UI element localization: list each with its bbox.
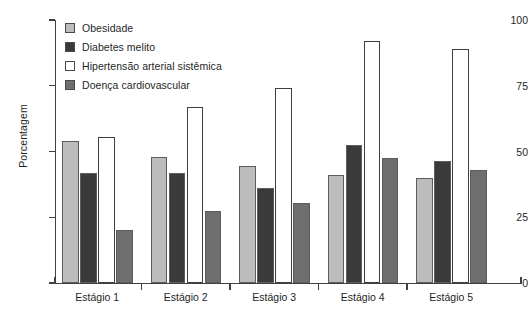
legend-item: Diabetes melito bbox=[65, 39, 222, 56]
bar bbox=[239, 166, 256, 283]
x-axis-tick-label: Estágio 5 bbox=[429, 291, 473, 303]
bar-chart: Porcentagem 0255075100 Estágio 1Estágio … bbox=[0, 0, 528, 318]
legend-swatch-icon bbox=[65, 23, 75, 33]
bar bbox=[205, 211, 222, 283]
x-axis-tick bbox=[229, 283, 230, 290]
bar bbox=[80, 173, 97, 283]
bar bbox=[257, 188, 274, 283]
x-axis-tick bbox=[141, 283, 142, 290]
chart-legend: ObesidadeDiabetes melitoHipertensão arte… bbox=[65, 20, 222, 96]
legend-swatch-icon bbox=[65, 80, 75, 90]
bar bbox=[452, 49, 469, 283]
x-axis-end-cap bbox=[54, 277, 55, 284]
bar bbox=[382, 158, 399, 283]
bar bbox=[346, 145, 363, 283]
x-axis-tick bbox=[318, 283, 319, 290]
bar bbox=[470, 170, 487, 283]
legend-swatch-icon bbox=[65, 42, 75, 52]
bar bbox=[328, 175, 345, 283]
x-axis-tick-label: Estágio 3 bbox=[252, 291, 296, 303]
bar bbox=[169, 173, 186, 283]
legend-item-label: Doença cardiovascular bbox=[82, 79, 190, 91]
x-axis-tick-label: Estágio 4 bbox=[341, 291, 385, 303]
bar bbox=[151, 157, 168, 283]
legend-item: Hipertensão arterial sistêmica bbox=[65, 58, 222, 75]
legend-item: Obesidade bbox=[65, 20, 222, 37]
legend-item-label: Obesidade bbox=[82, 22, 133, 34]
bar bbox=[434, 161, 451, 283]
bar bbox=[62, 141, 79, 283]
bar bbox=[275, 88, 292, 283]
bar bbox=[98, 137, 115, 283]
legend-item: Doença cardiovascular bbox=[65, 77, 222, 94]
x-axis-tick-label: Estágio 1 bbox=[75, 291, 119, 303]
y-axis-title: Porcentagem bbox=[17, 76, 29, 196]
bar bbox=[116, 230, 133, 283]
x-axis-tick bbox=[406, 283, 407, 290]
bar bbox=[293, 203, 310, 283]
bar bbox=[416, 178, 433, 283]
legend-swatch-icon bbox=[65, 61, 75, 71]
bar bbox=[364, 41, 381, 283]
x-axis-end-cap bbox=[520, 277, 521, 284]
legend-item-label: Diabetes melito bbox=[82, 41, 155, 53]
x-axis-tick-label: Estágio 2 bbox=[164, 291, 208, 303]
x-axis-line bbox=[55, 283, 521, 284]
legend-item-label: Hipertensão arterial sistêmica bbox=[82, 60, 222, 72]
bar bbox=[187, 107, 204, 283]
